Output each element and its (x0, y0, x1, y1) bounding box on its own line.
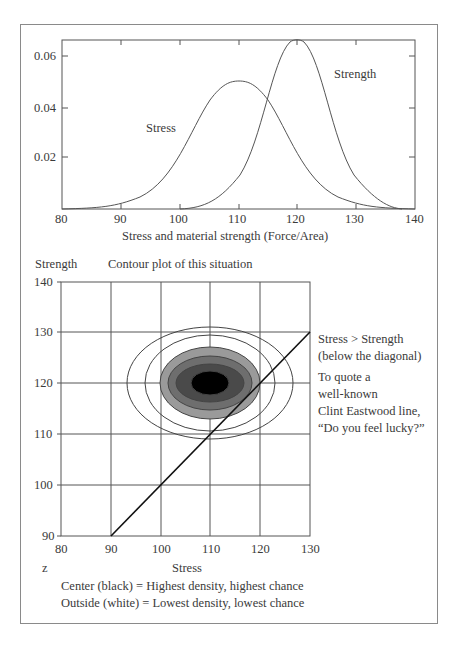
stress-curve-label: Stress (146, 120, 176, 136)
cy-tick-90: 90 (42, 528, 55, 544)
y-tick-002: 0.02 (34, 149, 56, 165)
contour-y-axis-label: Strength (35, 256, 77, 272)
y-tick-004: 0.04 (34, 100, 56, 116)
cx-tick-100: 100 (152, 541, 171, 557)
strength-curve-label: Strength (334, 66, 376, 82)
x-tick-120: 120 (286, 211, 305, 227)
cx-tick-130: 130 (301, 541, 320, 557)
stress-curve (62, 81, 415, 209)
quote-line-1: To quote a (318, 369, 371, 385)
cx-tick-110: 110 (202, 541, 220, 557)
x-tick-130: 130 (345, 211, 364, 227)
y-tick-006: 0.06 (34, 48, 56, 64)
cy-tick-100: 100 (34, 477, 53, 493)
density-chart (0, 0, 458, 648)
cy-tick-120: 120 (34, 375, 53, 391)
legend-outside: Outside (white) = Lowest density, lowest… (61, 595, 304, 611)
contour-x-axis-label: Stress (172, 560, 202, 576)
diagonal-note-2: (below the diagonal) (318, 348, 421, 364)
top-x-axis-label: Stress and material strength (Force/Area… (122, 228, 328, 244)
cy-tick-110: 110 (34, 426, 52, 442)
x-tick-80: 80 (55, 211, 68, 227)
quote-line-4: “Do you feel lucky?” (318, 420, 425, 436)
cx-tick-90: 90 (105, 541, 118, 557)
quote-line-3: Clint Eastwood line, (318, 403, 420, 419)
legend-center: Center (black) = Highest density, highes… (61, 578, 304, 594)
x-tick-90: 90 (114, 211, 127, 227)
z-label: z (42, 560, 48, 576)
x-tick-100: 100 (169, 211, 188, 227)
x-tick-140: 140 (405, 211, 424, 227)
contour-title: Contour plot of this situation (108, 256, 252, 272)
quote-line-2: well-known (318, 386, 378, 402)
cy-tick-130: 130 (34, 324, 53, 340)
cx-tick-120: 120 (251, 541, 270, 557)
x-tick-110: 110 (228, 211, 246, 227)
diagonal-note-1: Stress > Strength (318, 331, 404, 347)
cy-tick-140: 140 (34, 274, 53, 290)
cx-tick-80: 80 (55, 541, 68, 557)
